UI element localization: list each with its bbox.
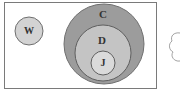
set-j: J: [91, 51, 115, 75]
venn-diagram: W C D J: [0, 0, 180, 93]
set-j-label: J: [101, 57, 106, 68]
set-c-label: C: [99, 8, 107, 20]
partial-cloud-shape: [169, 33, 180, 61]
set-w: W: [15, 17, 43, 45]
set-d-label: D: [98, 34, 106, 46]
set-w-label: W: [24, 25, 34, 36]
